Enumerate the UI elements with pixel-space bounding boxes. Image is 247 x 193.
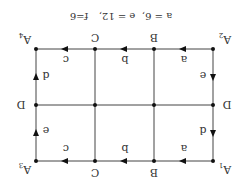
- arrow-right-icon: [120, 46, 127, 52]
- edge-label: b: [121, 142, 128, 155]
- arrow-down-icon: [33, 129, 39, 136]
- vertex-label: A4: [18, 31, 32, 46]
- edge-label: c: [63, 142, 69, 155]
- vertex-label: D: [222, 98, 231, 111]
- vertex-label: A2: [219, 31, 232, 46]
- edge-label: c: [63, 53, 69, 66]
- edge-label: a: [180, 142, 187, 155]
- svg-text:f=6: f=6: [70, 11, 88, 22]
- arrow-right-icon: [120, 158, 127, 164]
- vertex-label: B: [150, 31, 158, 44]
- caption: a = 6, e = 12, f=6: [70, 11, 172, 22]
- arrow-right-icon: [179, 46, 186, 52]
- arrow-up-icon: [210, 130, 216, 137]
- edge-label: b: [121, 53, 128, 66]
- edge-label: d: [42, 69, 49, 82]
- square-tiling-diagram: a b c a b c d e e d A1 B C A3 D D A2 B C…: [0, 0, 247, 193]
- arrow-right-icon: [61, 158, 68, 164]
- vertex-label: A1: [219, 161, 232, 176]
- vertex-label: D: [16, 98, 25, 111]
- edge-label: a: [180, 53, 187, 66]
- svg-text:e = 12,: e = 12,: [99, 11, 136, 22]
- vertex-label: B: [150, 166, 158, 179]
- arrow-up-icon: [210, 74, 216, 81]
- arrow-down-icon: [33, 73, 39, 80]
- arrow-right-icon: [61, 46, 68, 52]
- edge-label: d: [199, 124, 206, 137]
- diagram-canvas: a b c a b c d e e d A1 B C A3 D D A2 B C…: [0, 0, 247, 193]
- vertex-label: C: [91, 31, 99, 44]
- arrow-right-icon: [179, 158, 186, 164]
- edge-label: e: [43, 124, 50, 137]
- svg-text:a = 6,: a = 6,: [142, 11, 172, 22]
- vertex-label: A3: [19, 161, 32, 176]
- edge-label: e: [200, 69, 207, 82]
- vertex-label: C: [91, 166, 99, 179]
